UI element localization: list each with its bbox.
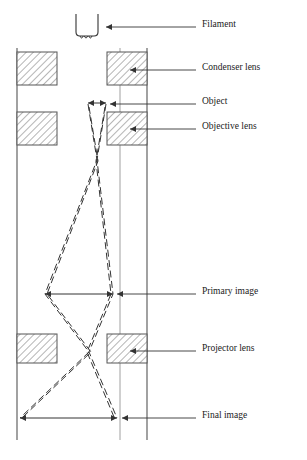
ray-inner-left — [23, 107, 98, 417]
ray-paths — [20, 104, 117, 418]
image-plane-arrows — [20, 103, 117, 418]
ray-inner-right — [87, 107, 114, 417]
label-final-image: Final image — [202, 411, 247, 421]
label-objective-lens: Objective lens — [202, 122, 257, 132]
condenser-lens-left — [17, 52, 57, 85]
diagram-page: Filament Condenser lens Object Objective… — [0, 0, 307, 460]
ray-outer-right — [89, 104, 117, 418]
objective-lens-left — [17, 112, 57, 145]
condenser-lens-right — [107, 52, 147, 85]
label-primary-image: Primary image — [202, 287, 258, 297]
microscope-column-walls — [17, 48, 147, 440]
projector-lens-right — [107, 334, 147, 363]
tem-ray-diagram — [0, 0, 307, 460]
electron-gun-filament — [76, 14, 98, 38]
label-condenser-lens: Condenser lens — [202, 63, 260, 73]
ray-outer-left — [20, 104, 97, 418]
lens-blocks — [17, 52, 147, 363]
label-filament: Filament — [202, 20, 236, 30]
label-object: Object — [202, 97, 227, 107]
projector-lens-left — [17, 334, 57, 363]
label-projector-lens: Projector lens — [202, 344, 255, 354]
objective-lens-right — [107, 112, 147, 145]
